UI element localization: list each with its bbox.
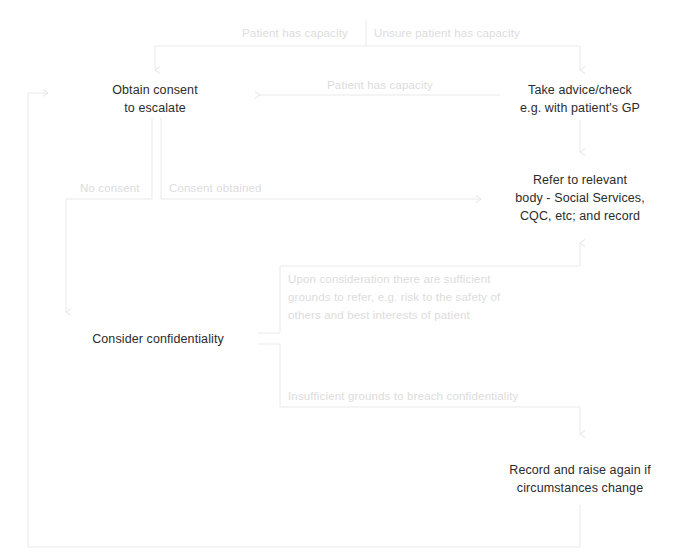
edge-label-insufficient-grounds: Insufficient grounds to breach confident… (288, 388, 568, 406)
node-take-advice-check: Take advice/check e.g. with patient's GP (500, 81, 660, 117)
node-record-and-raise-again: Record and raise again if circumstances … (492, 461, 668, 497)
edge-label-no-consent: No consent (80, 180, 150, 198)
edge-label-consent-obtained: Consent obtained (169, 180, 299, 198)
edge-no-consent-to-consider-confidentiality (66, 118, 152, 312)
node-refer-to-relevant-body: Refer to relevant body - Social Services… (495, 171, 665, 225)
edge-label-patient-has-capacity-return: Patient has capacity (311, 77, 449, 95)
edge-label-unsure-patient-has-capacity: Unsure patient has capacity (374, 25, 570, 43)
flowchart-canvas: Obtain consent to escalate Take advice/c… (0, 0, 682, 558)
edge-label-patient-has-capacity-top: Patient has capacity (228, 25, 362, 43)
node-consider-confidentiality: Consider confidentiality (58, 330, 258, 348)
edge-label-sufficient-grounds: Upon consideration there are sufficient … (288, 271, 538, 324)
node-obtain-consent: Obtain consent to escalate (83, 81, 227, 117)
